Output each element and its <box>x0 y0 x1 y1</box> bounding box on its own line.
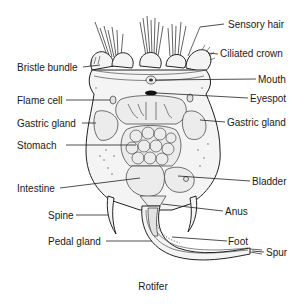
label-mouth: Mouth <box>258 74 286 85</box>
mouth-structure <box>146 76 156 84</box>
label-gastric-gland-right: Gastric gland <box>227 117 286 128</box>
label-spur: Spur <box>266 247 288 258</box>
mastax <box>116 96 187 125</box>
label-intestine: Intestine <box>17 183 55 194</box>
label-ciliated-crown: Ciliated crown <box>220 48 283 59</box>
label-gastric-gland-left: Gastric gland <box>17 118 76 129</box>
label-bladder: Bladder <box>252 176 287 187</box>
label-bristle-bundle: Bristle bundle <box>17 62 78 73</box>
diagram-caption: Rotifer <box>138 281 168 292</box>
label-foot: Foot <box>228 236 248 247</box>
rotifer-diagram: Sensory hair Ciliated crown Bristle bund… <box>0 0 306 304</box>
flame-cell-shape <box>110 96 116 104</box>
sensory-hairs <box>95 16 200 58</box>
label-eyespot: Eyespot <box>250 93 286 104</box>
label-pedal-gland: Pedal gland <box>48 236 101 247</box>
label-spine: Spine <box>48 210 74 221</box>
label-sensory-hair: Sensory hair <box>228 19 285 30</box>
stomach-shape <box>121 126 181 167</box>
eyespot-shape <box>145 90 157 95</box>
label-anus: Anus <box>225 206 248 217</box>
bladder-shape <box>164 167 194 192</box>
label-flame-cell: Flame cell <box>17 95 63 106</box>
ciliated-crown <box>90 45 215 72</box>
label-stomach: Stomach <box>17 140 56 151</box>
